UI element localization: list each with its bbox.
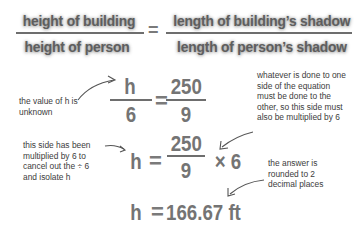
arrow-whatever-icon [220, 132, 253, 149]
arrow-unknown-icon [78, 76, 115, 100]
annotation-arrows [0, 0, 362, 234]
arrow-multiplied-icon [105, 145, 125, 152]
arrow-rounded-icon [228, 180, 264, 196]
